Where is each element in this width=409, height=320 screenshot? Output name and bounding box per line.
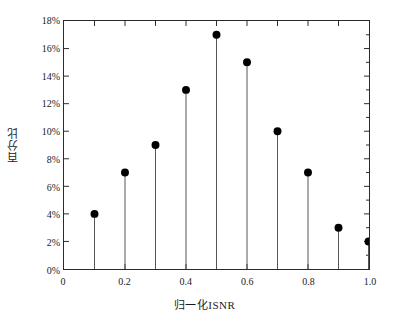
x-axis-tick-label: 0.2 [118, 276, 131, 287]
x-axis-title: 归一化ISNR [0, 296, 409, 312]
x-axis-tick-labels: 00.20.40.60.81.0 [0, 0, 409, 320]
x-axis-tick-label: 0.8 [302, 276, 315, 287]
x-axis-tick-label: 0.4 [180, 276, 193, 287]
stem-chart-figure: 百分比 0%2%4%6%8%10%12%14%16%18% 00.20.40.6… [0, 0, 409, 320]
x-axis-tick-label: 0.6 [241, 276, 254, 287]
x-axis-tick-label: 0 [61, 276, 66, 287]
x-axis-tick-label: 1.0 [364, 276, 377, 287]
